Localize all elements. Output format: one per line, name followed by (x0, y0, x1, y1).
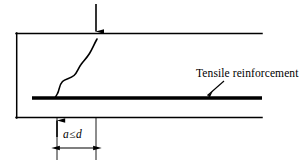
dimension-variable-d: d (76, 128, 82, 140)
dimension-relation-operator: ≤ (69, 128, 76, 140)
shear-crack-path (55, 39, 97, 97)
dimension-variable-a: a (63, 128, 69, 140)
shear-span-dimension-label: a≤d (63, 129, 82, 141)
tensile-reinforcement-label: Tensile reinforcement (196, 68, 299, 80)
reinforcement-leader-line (208, 81, 225, 96)
diagram-canvas (0, 0, 301, 167)
beam-shear-crack-diagram: Tensile reinforcement a≤d (0, 0, 301, 167)
